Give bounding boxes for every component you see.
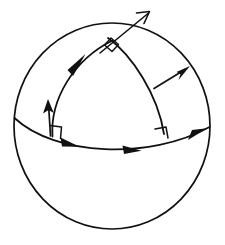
spherical-triangle-figure: Spherical right triangle on a sphere geo… [0,0,225,245]
diagram-canvas [0,0,225,245]
sphere-outline-group [14,23,210,229]
equator-arc [15,118,210,149]
base-right-vertex-group [155,127,168,138]
right-meridian-arc-group [108,38,164,134]
sphere-outline [14,23,210,229]
right-meridian-arc [108,38,164,134]
left-arc-direction-arrow-icon [68,54,86,76]
base-right-right-angle-mark [155,127,168,138]
right-arc-normal-vector-head-icon [177,66,191,80]
equator-arrow-mid-icon [123,146,142,155]
equator-arc-group [15,118,210,154]
right-arc-normal-vector-group [154,66,190,89]
left-meridian-arc-group [52,41,112,137]
equator-arrow-right-icon [188,128,207,140]
left-meridian-arc [52,41,112,137]
